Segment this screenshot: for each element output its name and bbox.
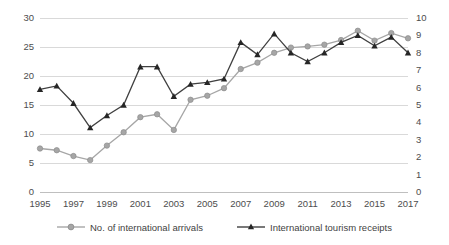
y-axis-right-tick-label: 6 xyxy=(416,83,438,93)
data-point-marker xyxy=(304,58,310,64)
data-point-marker xyxy=(238,66,243,71)
chart-container: No. of international arrivals Internatio… xyxy=(0,0,449,245)
data-point-marker xyxy=(188,97,193,102)
data-point-marker xyxy=(104,112,110,118)
x-axis-tick-label: 2011 xyxy=(291,199,325,209)
data-point-marker xyxy=(120,102,126,108)
data-point-marker xyxy=(271,30,277,36)
x-axis-tick-label: 2015 xyxy=(358,199,392,209)
data-point-marker xyxy=(321,50,327,56)
y-axis-left-tick-label: 20 xyxy=(10,71,34,81)
x-axis-tick-label: 1997 xyxy=(56,199,90,209)
y-axis-right-tick-label: 7 xyxy=(416,65,438,75)
legend-label-receipts: International tourism receipts xyxy=(270,223,392,233)
data-point-marker xyxy=(221,76,227,82)
legend-marker-triangle-icon xyxy=(237,222,265,234)
y-axis-left-tick-label: 15 xyxy=(10,100,34,110)
x-axis-tick-label: 2009 xyxy=(257,199,291,209)
data-point-marker xyxy=(104,143,109,148)
data-point-marker xyxy=(305,44,310,49)
y-axis-right-tick-label: 1 xyxy=(416,170,438,180)
series-layer xyxy=(40,18,408,192)
x-axis-tick-label: 2005 xyxy=(190,199,224,209)
x-axis-tick-label: 1995 xyxy=(23,199,57,209)
y-axis-left-tick-label: 25 xyxy=(10,42,34,52)
legend-marker-circle-icon xyxy=(57,222,85,234)
data-point-marker xyxy=(87,157,92,162)
data-point-marker xyxy=(37,146,42,151)
y-axis-left-tick-label: 30 xyxy=(10,13,34,23)
data-point-marker xyxy=(221,85,226,90)
x-axis-tick-label: 2001 xyxy=(123,199,157,209)
data-point-marker xyxy=(171,127,176,132)
y-axis-right-tick-label: 4 xyxy=(416,117,438,127)
data-point-marker xyxy=(54,83,60,89)
data-point-marker xyxy=(322,42,327,47)
data-point-marker xyxy=(71,153,76,158)
data-point-marker xyxy=(355,32,361,38)
legend-item-receipts[interactable]: International tourism receipts xyxy=(237,222,392,234)
y-axis-left-tick-label: 10 xyxy=(10,129,34,139)
data-point-marker xyxy=(121,130,126,135)
x-axis-tick-label: 2007 xyxy=(224,199,258,209)
data-point-marker xyxy=(405,36,410,41)
series-line xyxy=(40,31,408,160)
x-axis-tick-label: 2013 xyxy=(324,199,358,209)
data-point-marker xyxy=(255,60,260,65)
data-point-marker xyxy=(205,93,210,98)
y-axis-right-tick-label: 3 xyxy=(416,135,438,145)
y-axis-left-tick-label: 5 xyxy=(10,158,34,168)
legend-item-arrivals[interactable]: No. of international arrivals xyxy=(57,222,203,234)
data-point-marker xyxy=(271,50,276,55)
x-axis-tick-label: 2017 xyxy=(391,199,425,209)
y-axis-right-tick-label: 8 xyxy=(416,48,438,58)
chart-legend: No. of international arrivals Internatio… xyxy=(0,222,449,234)
y-axis-right-tick-label: 2 xyxy=(416,152,438,162)
gridline xyxy=(40,192,408,193)
y-axis-left-tick-label: 0 xyxy=(10,187,34,197)
data-point-marker xyxy=(238,39,244,45)
data-point-marker xyxy=(372,38,377,43)
y-axis-right-tick-label: 9 xyxy=(416,30,438,40)
x-axis-tick-label: 1999 xyxy=(90,199,124,209)
data-point-marker xyxy=(154,112,159,117)
plot-area xyxy=(40,18,408,192)
data-point-marker xyxy=(138,114,143,119)
data-point-marker xyxy=(288,45,293,50)
y-axis-right-tick-label: 10 xyxy=(416,13,438,23)
data-point-marker xyxy=(54,148,59,153)
y-axis-right-tick-label: 5 xyxy=(416,100,438,110)
y-axis-right-tick-label: 0 xyxy=(416,187,438,197)
x-axis-tick-label: 2003 xyxy=(157,199,191,209)
legend-label-arrivals: No. of international arrivals xyxy=(90,223,203,233)
data-point-marker xyxy=(371,43,377,49)
